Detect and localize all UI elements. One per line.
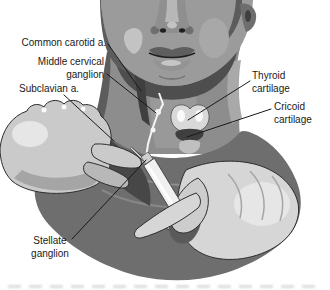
nose-bridge-highlight	[165, 0, 179, 22]
nostril-left	[160, 28, 166, 32]
label-common-carotid-artery: Common carotid a.	[0, 36, 106, 49]
label-thyroid-cartilage: Thyroid cartilage	[252, 69, 290, 95]
ear-inner-shadow	[245, 10, 251, 22]
label-middle-cervical-ganglion: Middle cervical ganglion	[0, 55, 104, 81]
middle-cervical-ganglion-node	[155, 109, 161, 115]
left-hand-highlight	[12, 121, 48, 147]
right-cheek-patch	[199, 18, 229, 58]
lower-lip-highlight	[161, 60, 181, 66]
knuckle-highlight-2	[62, 105, 67, 110]
nose-tip-highlight	[167, 22, 177, 29]
label-subclavian-artery: Subclavian a.	[19, 82, 79, 95]
nostril-right	[179, 28, 185, 32]
chain-node	[151, 128, 156, 133]
cropped-caption-remnant	[8, 285, 322, 288]
label-cricoid-cartilage: Cricoid cartilage	[274, 100, 312, 126]
label-stellate-ganglion: Stellate ganglion	[18, 234, 82, 260]
figure-stellate-ganglion-block: Common carotid a. Middle cervical gangli…	[0, 0, 330, 290]
knuckle-highlight-1	[42, 108, 47, 113]
thyroid-highlight-left	[177, 110, 185, 122]
